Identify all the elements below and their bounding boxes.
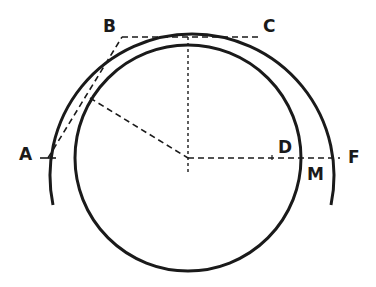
label-c: C: [263, 16, 275, 36]
label-b: B: [103, 16, 116, 36]
slanted-radius: [90, 98, 188, 158]
label-m: M: [307, 164, 324, 184]
label-a: A: [19, 144, 33, 164]
circle-diagram: A B C D F M: [0, 0, 376, 287]
label-f: F: [348, 147, 360, 167]
segment-ab: [48, 37, 122, 158]
label-d: D: [278, 137, 292, 157]
outer-arc: [50, 34, 334, 205]
